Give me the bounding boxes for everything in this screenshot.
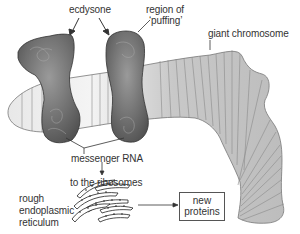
label-puffing-line2: ‘puffing’ bbox=[149, 15, 182, 26]
label-messenger-rna: messenger RNA bbox=[71, 153, 143, 164]
new-proteins-line1: new bbox=[180, 195, 224, 206]
label-rer-line1: rough bbox=[19, 193, 44, 204]
ecdysone-arrows bbox=[69, 18, 109, 35]
mrna-bracket bbox=[66, 138, 124, 154]
label-rer-line3: reticulum bbox=[19, 217, 59, 228]
label-to-ribosomes: to the ribosomes bbox=[70, 177, 142, 188]
new-proteins-box: new proteins bbox=[179, 192, 225, 221]
new-proteins-line2: proteins bbox=[180, 206, 224, 217]
chromosome-puffing-diagram: ecdysone region of ‘puffing’ giant chrom… bbox=[0, 0, 300, 234]
label-ecdysone: ecdysone bbox=[69, 4, 111, 15]
label-rer-line2: endoplasmic bbox=[19, 205, 74, 216]
chromosome-puff-right bbox=[106, 31, 148, 142]
label-puffing-line1: region of bbox=[146, 4, 184, 15]
label-giant-chromosome: giant chromosome bbox=[208, 28, 289, 39]
proteins-arrow bbox=[138, 203, 178, 207]
